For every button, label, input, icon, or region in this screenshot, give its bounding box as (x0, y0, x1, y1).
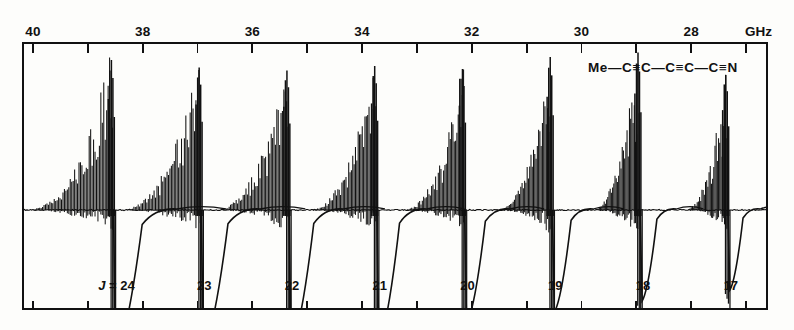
axis-unit-label: GHz (745, 24, 772, 39)
axis-tick-bottom (581, 301, 583, 310)
figure-canvas: GHz 40383634323028 Me—C≡C—C≡C—C≡N J = 24… (0, 0, 794, 330)
j-quantum-number-label: 19 (548, 278, 562, 293)
spectrum-trace (22, 42, 768, 310)
axis-tick-bottom (306, 301, 308, 310)
axis-tick-bottom (251, 301, 253, 310)
axis-tick-label-top: 40 (25, 24, 40, 39)
j-quantum-number-label: 23 (197, 278, 211, 293)
axis-tick-bottom (32, 301, 34, 310)
axis-tick-label-top: 32 (464, 24, 479, 39)
j-quantum-number-label: 18 (636, 278, 650, 293)
axis-tick-bottom (361, 301, 363, 310)
axis-tick-bottom (690, 301, 692, 310)
axis-tick-label-top: 30 (574, 24, 589, 39)
axis-tick-label-top: 38 (135, 24, 150, 39)
j-quantum-number-label: 17 (724, 278, 738, 293)
axis-tick-bottom (745, 301, 747, 310)
j-quantum-number-label: J = 24 (98, 278, 135, 293)
axis-tick-label-top: 36 (245, 24, 260, 39)
j-quantum-number-label: 21 (373, 278, 387, 293)
axis-tick-label-top: 34 (354, 24, 369, 39)
axis-tick-label-top: 28 (683, 24, 698, 39)
molecular-formula-annotation: Me—C≡C—C≡C—C≡N (588, 60, 738, 75)
j-quantum-number-label: 20 (460, 278, 474, 293)
axis-tick-bottom (526, 301, 528, 310)
axis-tick-bottom (471, 301, 473, 310)
axis-tick-bottom (635, 301, 637, 310)
axis-tick-bottom (197, 301, 199, 310)
axis-tick-bottom (142, 301, 144, 310)
j-quantum-number-label: 22 (285, 278, 299, 293)
axis-tick-bottom (416, 301, 418, 310)
axis-tick-bottom (87, 301, 89, 310)
frequency-axis-bottom (22, 308, 768, 310)
